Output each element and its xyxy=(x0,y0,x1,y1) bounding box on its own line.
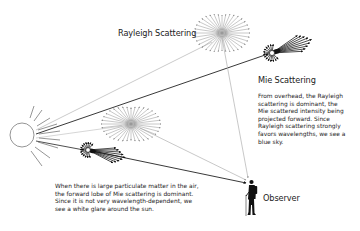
mie-scattering-label: Mie Scattering xyxy=(258,75,316,85)
rayleigh-scatterer-upper xyxy=(194,14,250,52)
rayleigh-scatterer-middle xyxy=(101,107,161,142)
light-paths xyxy=(36,38,268,183)
sun-glare-caption: When there is large particulate matter i… xyxy=(55,183,199,213)
observer-label: Observer xyxy=(263,193,300,203)
mie-scatterer-upper xyxy=(263,35,311,61)
overhead-caption: From overhead, the Rayleigh scattering i… xyxy=(258,93,345,146)
rayleigh-scattering-label: Rayleigh Scattering xyxy=(118,28,196,38)
mie-scatterer-lower xyxy=(80,142,125,163)
hiker-silhouette-icon xyxy=(246,180,257,216)
